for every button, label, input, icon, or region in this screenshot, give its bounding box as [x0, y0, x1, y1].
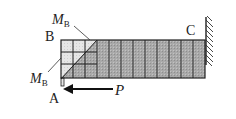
- label-point-c: C: [186, 23, 195, 38]
- leader-line-bottom: [48, 58, 61, 72]
- label-force-p: P: [114, 82, 124, 98]
- label-moment-bottom: MB: [29, 71, 48, 88]
- leader-line-top: [74, 26, 90, 40]
- label-moment-top: MB: [51, 12, 70, 29]
- fixed-wall: [206, 16, 213, 66]
- beam-diagram: MB B MB A P C: [0, 0, 236, 119]
- label-point-b: B: [45, 29, 54, 44]
- label-point-a: A: [49, 91, 60, 106]
- force-arrow: [63, 84, 113, 94]
